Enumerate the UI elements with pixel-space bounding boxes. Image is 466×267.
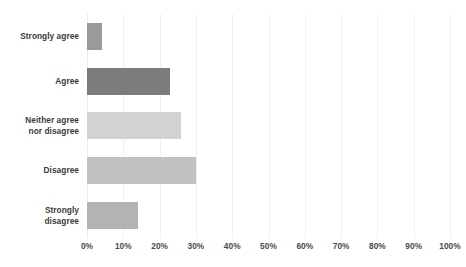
bar-rows bbox=[87, 14, 450, 238]
bar-agree bbox=[87, 68, 170, 95]
category-label-neither-agree-nor-disagree: Neither agree nor disagree bbox=[0, 104, 79, 149]
bar-row bbox=[87, 104, 450, 149]
category-label-disagree: Disagree bbox=[0, 148, 79, 193]
horizontal-bar-chart: Strongly agree Agree Neither agree nor d… bbox=[0, 0, 466, 267]
x-axis-tick-label: 50% bbox=[260, 241, 277, 251]
x-axis-tick-label: 30% bbox=[188, 241, 205, 251]
gridline bbox=[450, 14, 451, 238]
bar-row bbox=[87, 59, 450, 104]
x-axis-tick-label: 80% bbox=[369, 241, 386, 251]
x-axis-tick-label: 40% bbox=[224, 241, 241, 251]
x-axis-tick-label: 100% bbox=[439, 241, 460, 251]
bar-disagree bbox=[87, 157, 196, 184]
x-axis-tick-label: 90% bbox=[405, 241, 422, 251]
bar-row bbox=[87, 148, 450, 193]
value-axis: 0%10%20%30%40%50%60%70%80%90%100% bbox=[87, 238, 450, 258]
bar-row bbox=[87, 14, 450, 59]
category-label-strongly-agree: Strongly agree bbox=[0, 14, 79, 59]
bar-strongly-agree bbox=[87, 23, 102, 50]
category-axis: Strongly agree Agree Neither agree nor d… bbox=[0, 14, 79, 238]
plot-area bbox=[87, 14, 450, 238]
category-label-strongly-disagree: Strongly disagree bbox=[0, 193, 79, 238]
bar-strongly-disagree bbox=[87, 202, 138, 229]
x-axis-tick-label: 60% bbox=[296, 241, 313, 251]
bar-row bbox=[87, 193, 450, 238]
bar-neither-agree-nor-disagree bbox=[87, 112, 181, 139]
x-axis-tick-label: 20% bbox=[151, 241, 168, 251]
x-axis-tick-label: 70% bbox=[333, 241, 350, 251]
x-axis-tick-label: 0% bbox=[81, 241, 93, 251]
x-axis-tick-label: 10% bbox=[115, 241, 132, 251]
category-label-agree: Agree bbox=[0, 59, 79, 104]
